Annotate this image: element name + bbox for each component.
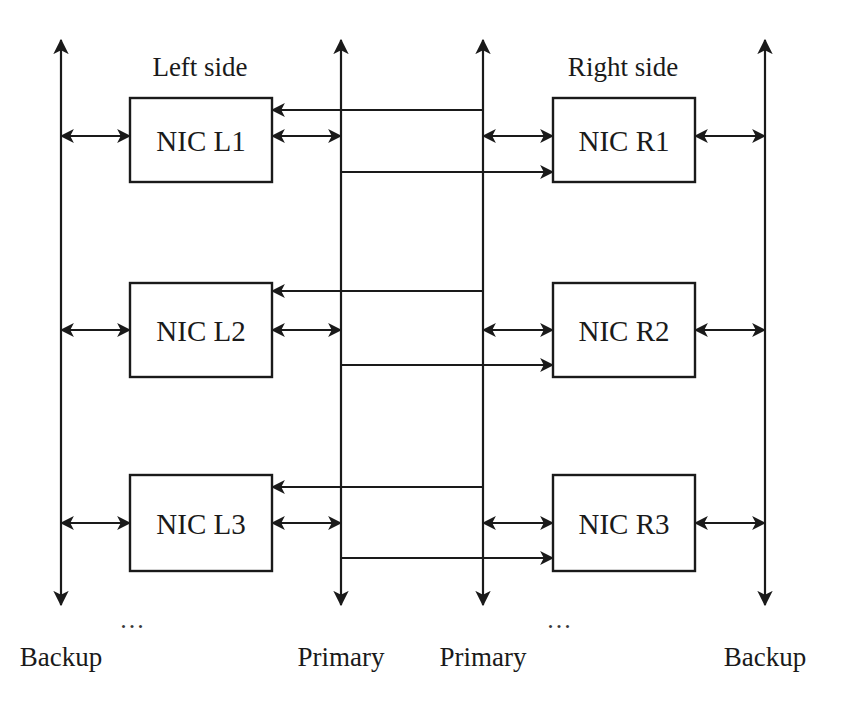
- nic-label-nic-r1: NIC R1: [578, 127, 669, 156]
- header-left-side: Left side: [152, 54, 247, 81]
- cross-links-group: [272, 110, 553, 558]
- diagram-canvas: BackupPrimaryPrimaryBackupNIC L1NIC L2NI…: [0, 0, 846, 712]
- ellipsis-right: ...: [547, 607, 573, 633]
- nic-label-nic-l1: NIC L1: [156, 127, 245, 156]
- nic-label-nic-l2: NIC L2: [156, 317, 245, 346]
- bus-label-backup-left: Backup: [20, 644, 102, 671]
- nic-label-nic-l3: NIC L3: [156, 510, 245, 539]
- bus-label-backup-right: Backup: [724, 644, 806, 671]
- ellipsis-left: ...: [120, 607, 146, 633]
- nic-label-nic-r3: NIC R3: [578, 510, 669, 539]
- bus-label-primary-left: Primary: [298, 644, 385, 671]
- header-right-side: Right side: [568, 54, 678, 81]
- nic-label-nic-r2: NIC R2: [578, 317, 669, 346]
- bus-label-primary-right: Primary: [440, 644, 527, 671]
